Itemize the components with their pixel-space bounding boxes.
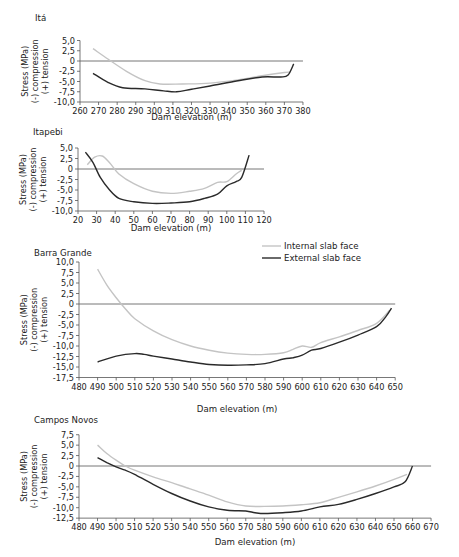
chart-title: Campos Novos (34, 415, 99, 425)
x-tick-label: 620 (332, 382, 348, 392)
y-tick-label: -7,5 (58, 492, 74, 502)
y-tick-label: -12,5 (53, 352, 74, 362)
x-tick-label: 110 (238, 215, 254, 225)
x-tick-label: 500 (108, 382, 124, 392)
legend-external-label: External slab face (284, 253, 361, 263)
x-tick-label: 480 (71, 382, 87, 392)
x-tick-label: 550 (201, 522, 217, 532)
x-tick-label: 640 (368, 522, 384, 532)
x-tick-label: 570 (239, 382, 255, 392)
x-tick-label: 600 (294, 522, 310, 532)
x-tick-label: 570 (238, 522, 254, 532)
y-tick-label: 5,0 (62, 36, 75, 46)
y-tick-label: 2,5 (62, 46, 75, 56)
y-axis-label: (-) compression (28, 148, 38, 212)
x-tick-label: 620 (331, 522, 347, 532)
y-tick-label: -2,5 (58, 310, 74, 320)
x-tick-label: 540 (182, 522, 198, 532)
y-tick-label: -15,0 (53, 362, 74, 372)
x-tick-label: 510 (127, 522, 143, 532)
chart-itapebi: Itapebi5,02,50-2,5-5,0-7,5-10,0203040506… (18, 127, 272, 233)
y-tick-label: 0 (69, 461, 74, 471)
y-tick-label: -5,0 (59, 77, 75, 87)
x-tick-label: 30 (91, 215, 101, 225)
x-tick-label: 670 (423, 522, 439, 532)
x-tick-label: 580 (256, 522, 272, 532)
y-axis-label: Stress (MPa) (20, 46, 30, 97)
x-tick-label: 610 (312, 522, 328, 532)
y-tick-label: -5,0 (57, 185, 73, 195)
y-tick-label: -2,5 (57, 175, 73, 185)
y-axis-label: (+) tension (38, 156, 48, 202)
y-tick-label: 2,5 (61, 289, 74, 299)
x-axis-label: Dam elevation (m) (215, 537, 296, 547)
x-tick-label: 20 (73, 215, 83, 225)
y-tick-label: -5,0 (58, 482, 74, 492)
x-tick-label: 480 (71, 522, 87, 532)
y-tick-label: -7,5 (57, 196, 73, 206)
y-axis-label: (-) compression (29, 288, 39, 352)
x-tick-label: 350 (239, 106, 255, 116)
y-tick-label: 10,0 (56, 257, 74, 267)
x-tick-label: 630 (349, 522, 365, 532)
y-tick-label: -10,0 (53, 341, 74, 351)
y-axis-label: (-) compression (30, 39, 40, 103)
y-tick-label: -2,5 (59, 66, 75, 76)
x-tick-label: 580 (257, 382, 273, 392)
x-axis-label: Dam elevation (m) (131, 223, 212, 233)
y-tick-label: -10,0 (52, 206, 73, 216)
y-tick-label: -7,5 (59, 87, 75, 97)
x-tick-label: 560 (219, 522, 235, 532)
chart-ita: Itá5,02,50-2,5-5,0-7,5-10,02602702802903… (20, 13, 311, 122)
x-tick-label: 260 (72, 106, 88, 116)
internal-slab-face-line (98, 445, 407, 506)
y-axis-label: Stress (MPa) (19, 451, 29, 502)
y-tick-label: 2,5 (61, 451, 74, 461)
x-tick-label: 630 (350, 382, 366, 392)
x-tick-label: 510 (127, 382, 143, 392)
chart-title: Itapebi (33, 127, 63, 137)
internal-slab-face-line (87, 156, 241, 194)
x-axis-label: Dam elevation (m) (197, 404, 278, 414)
external-slab-face-line (98, 308, 392, 365)
y-axis-label: Stress (MPa) (19, 294, 29, 345)
y-tick-label: 7,5 (61, 268, 74, 278)
x-tick-label: 370 (277, 106, 293, 116)
internal-slab-face-line (98, 269, 390, 354)
external-slab-face-line (85, 152, 249, 203)
y-tick-label: 5,0 (61, 278, 74, 288)
y-tick-label: 0 (69, 299, 74, 309)
x-tick-label: 290 (128, 106, 144, 116)
legend: Internal slab faceExternal slab face (262, 241, 361, 263)
y-tick-label: 0 (68, 164, 73, 174)
y-axis-label: Stress (MPa) (18, 154, 28, 205)
y-axis-label: (+) tension (39, 453, 49, 499)
x-axis-label: Dam elevation (m) (151, 112, 232, 122)
x-tick-label: 560 (220, 382, 236, 392)
x-tick-label: 380 (295, 106, 311, 116)
y-tick-label: -7,5 (58, 331, 74, 341)
y-tick-label: 0 (70, 56, 75, 66)
x-tick-label: 530 (164, 382, 180, 392)
x-tick-label: 590 (275, 522, 291, 532)
y-tick-label: 5,0 (61, 440, 74, 450)
x-tick-label: 540 (183, 382, 199, 392)
x-tick-label: 360 (258, 106, 274, 116)
x-tick-label: 640 (369, 382, 385, 392)
external-slab-face-line (93, 64, 294, 92)
y-axis-label: (-) compression (29, 444, 39, 508)
x-tick-label: 40 (110, 215, 120, 225)
y-axis-label: (+) tension (40, 48, 50, 94)
x-tick-label: 650 (386, 522, 402, 532)
x-tick-label: 610 (313, 382, 329, 392)
y-axis-label: (+) tension (39, 297, 49, 343)
y-tick-label: 7,5 (61, 430, 74, 440)
chart-barra-grande: Barra Grande10,07,55,02,50-2,5-5,0-7,5-1… (19, 248, 403, 414)
chart-campos-novos: Campos Novos7,55,02,50-2,5-5,0-7,5-10,0-… (19, 415, 439, 547)
x-tick-label: 120 (256, 215, 272, 225)
y-tick-label: -5,0 (58, 320, 74, 330)
x-tick-label: 270 (91, 106, 107, 116)
x-tick-label: 100 (219, 215, 235, 225)
x-tick-label: 280 (109, 106, 125, 116)
y-tick-label: -10,0 (53, 503, 74, 513)
